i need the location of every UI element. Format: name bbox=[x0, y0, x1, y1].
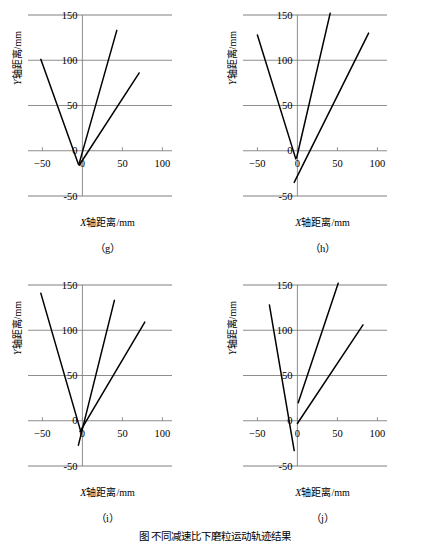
y-axis-unit-i: 轴距离/mm bbox=[12, 301, 23, 349]
series-line-trajectory-2 bbox=[297, 13, 331, 158]
series-line-trajectory-3 bbox=[79, 73, 139, 165]
ytick-label-100: 100 bbox=[62, 55, 78, 66]
plot-area-j: -50050100150−50050100 bbox=[215, 270, 430, 540]
y-axis-var-j: Y bbox=[227, 349, 238, 355]
y-axis-label-h: Y轴距离/mm bbox=[214, 0, 229, 58]
y-axis-unit-g: 轴距离/mm bbox=[12, 31, 23, 79]
ytick-label-150: 150 bbox=[277, 280, 293, 291]
series-line-trajectory-1 bbox=[41, 59, 79, 164]
xtick-label-100: 100 bbox=[370, 158, 386, 169]
xtick-label-100: 100 bbox=[155, 428, 171, 439]
ytick-label-100: 100 bbox=[62, 325, 78, 336]
xtick-label--50: −50 bbox=[249, 158, 265, 169]
x-axis-label-g: X轴距离/mm bbox=[0, 214, 215, 229]
ytick-label--50: -50 bbox=[278, 191, 292, 202]
ytick-label-150: 150 bbox=[62, 10, 78, 21]
series-line-trajectory-3 bbox=[80, 322, 145, 432]
x-axis-label-j: X轴距离/mm bbox=[215, 484, 430, 499]
ytick-label-50: 50 bbox=[67, 370, 78, 381]
xtick-label-100: 100 bbox=[155, 158, 171, 169]
series-line-trajectory-1 bbox=[41, 293, 81, 431]
chart-panel-g: -50050100150−50050100 Y轴距离/mm X轴距离/mm （g… bbox=[0, 0, 215, 270]
chart-panel-i: -50050100150−50050100 Y轴距离/mm X轴距离/mm （i… bbox=[0, 270, 215, 540]
plot-area-i: -50050100150−50050100 bbox=[0, 270, 215, 540]
series-line-trajectory-2 bbox=[298, 283, 338, 402]
x-axis-unit-j: 轴距离/mm bbox=[301, 487, 349, 498]
series-line-trajectory-1 bbox=[257, 35, 295, 159]
y-axis-var-i: Y bbox=[12, 349, 23, 355]
xtick-label-50: 50 bbox=[332, 428, 343, 439]
ytick-label-100: 100 bbox=[277, 55, 293, 66]
x-axis-unit-g: 轴距离/mm bbox=[86, 217, 134, 228]
series-line-trajectory-2 bbox=[78, 300, 114, 445]
xtick-label-0: 0 bbox=[295, 428, 300, 439]
ytick-label-50: 50 bbox=[67, 100, 78, 111]
xtick-label--50: −50 bbox=[249, 428, 265, 439]
ytick-label-100: 100 bbox=[277, 325, 293, 336]
xtick-label-50: 50 bbox=[117, 428, 128, 439]
ytick-label-50: 50 bbox=[282, 370, 293, 381]
ytick-label--50: -50 bbox=[63, 461, 77, 472]
y-axis-label-i: Y轴距离/mm bbox=[0, 210, 14, 328]
xtick-label-50: 50 bbox=[332, 158, 343, 169]
series-line-trajectory-2 bbox=[79, 30, 117, 163]
x-axis-label-i: X轴距离/mm bbox=[0, 484, 215, 499]
xtick-label-50: 50 bbox=[117, 158, 128, 169]
ytick-label-150: 150 bbox=[62, 280, 78, 291]
plot-area-h: -50050100150−50050100 bbox=[215, 0, 430, 270]
panel-caption-j: （j） bbox=[215, 510, 430, 525]
y-axis-unit-h: 轴距离/mm bbox=[227, 31, 238, 79]
ytick-label-50: 50 bbox=[282, 100, 293, 111]
y-axis-var-h: Y bbox=[227, 79, 238, 85]
y-axis-label-g: Y轴距离/mm bbox=[0, 0, 14, 58]
x-axis-unit-i: 轴距离/mm bbox=[86, 487, 134, 498]
panel-caption-h: （h） bbox=[215, 240, 430, 255]
xtick-label--50: −50 bbox=[34, 158, 50, 169]
plot-area-g: -50050100150−50050100 bbox=[0, 0, 215, 270]
y-axis-var-g: Y bbox=[12, 79, 23, 85]
figure-caption: 图 不同减速比下磨粒运动轨迹结果 bbox=[0, 528, 430, 543]
ytick-label-150: 150 bbox=[277, 10, 293, 21]
panel-caption-g: （g） bbox=[0, 240, 215, 255]
ytick-label--50: -50 bbox=[63, 191, 77, 202]
x-axis-label-h: X轴距离/mm bbox=[215, 214, 430, 229]
chart-panel-h: -50050100150−50050100 Y轴距离/mm X轴距离/mm （h… bbox=[215, 0, 430, 270]
xtick-label-100: 100 bbox=[370, 428, 386, 439]
xtick-label--50: −50 bbox=[34, 428, 50, 439]
ytick-label--50: -50 bbox=[278, 461, 292, 472]
x-axis-unit-h: 轴距离/mm bbox=[301, 217, 349, 228]
chart-panel-j: -50050100150−50050100 Y轴距离/mm X轴距离/mm （j… bbox=[215, 270, 430, 540]
y-axis-unit-j: 轴距离/mm bbox=[227, 301, 238, 349]
y-axis-label-j: Y轴距离/mm bbox=[214, 210, 229, 328]
panel-caption-i: （i） bbox=[0, 510, 215, 525]
